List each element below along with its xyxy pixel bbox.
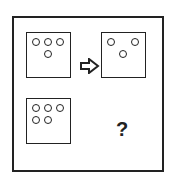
panel-top-right	[101, 32, 146, 78]
circle-icon	[32, 38, 40, 46]
right-arrow-icon	[80, 58, 100, 74]
circle-icon	[131, 38, 139, 46]
panel-bottom-left	[26, 98, 71, 144]
circle-icon	[56, 104, 64, 112]
circle-icon	[32, 104, 40, 112]
circle-icon	[56, 38, 64, 46]
circle-icon	[44, 50, 52, 58]
unknown-answer-mark: ?	[116, 118, 128, 141]
circle-icon	[44, 116, 52, 124]
circle-icon	[44, 38, 52, 46]
circle-icon	[32, 116, 40, 124]
panel-top-left	[26, 32, 71, 78]
circle-icon	[44, 104, 52, 112]
circle-icon	[107, 38, 115, 46]
circle-icon	[119, 50, 127, 58]
